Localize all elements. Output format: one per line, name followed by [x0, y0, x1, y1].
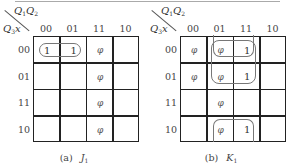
- cell-r0c3: [114, 37, 141, 64]
- row-header: 01: [8, 71, 30, 82]
- row-header: 11: [155, 97, 177, 108]
- row-header: 10: [155, 124, 177, 135]
- cell-r3c3: [114, 117, 141, 144]
- cell-r2c3: [261, 90, 288, 117]
- cell-r1c0: [34, 64, 61, 91]
- row-header: 11: [8, 97, 30, 108]
- figure-caption: (a)J1: [0, 152, 148, 164]
- row-header: 10: [8, 124, 30, 135]
- column-variable-label: Q1Q2: [161, 5, 185, 17]
- cell-r2c0: [181, 90, 208, 117]
- cell-r3c1: [61, 117, 88, 144]
- row-variable-label: Q3x: [150, 23, 168, 35]
- kmap-k1: Q1Q2 Q3x 00 01 11 10 00 01 11 10 φ φ 1 φ…: [147, 0, 295, 168]
- cell-r3c0: [181, 117, 208, 144]
- cell-r0c0: φ: [181, 37, 208, 64]
- col-header: 01: [60, 23, 86, 34]
- cell-r1c0: φ: [181, 64, 208, 91]
- row-header: 00: [8, 44, 30, 55]
- cell-r1c3: [114, 64, 141, 91]
- cell-r2c2: φ: [87, 90, 114, 117]
- cell-r0c2: φ: [87, 37, 114, 64]
- row-header: 00: [155, 44, 177, 55]
- cell-r1c3: [261, 64, 288, 91]
- kmap-j1: Q1Q2 Q3x 00 01 11 10 00 01 11 10 1 1 φ φ…: [0, 0, 148, 168]
- grouping-loop-wrap-top: [213, 35, 254, 57]
- column-variable-label: Q1Q2: [14, 5, 38, 17]
- col-header: 11: [233, 23, 259, 34]
- cell-r1c2: φ: [87, 64, 114, 91]
- cell-r3c3: [261, 117, 288, 144]
- col-header: 10: [113, 23, 139, 34]
- cell-r2c2: [234, 90, 261, 117]
- cell-r2c0: [34, 90, 61, 117]
- row-variable-label: Q3x: [3, 23, 21, 35]
- row-header: 01: [155, 71, 177, 82]
- col-header: 00: [180, 23, 206, 34]
- cell-r3c2: φ: [87, 117, 114, 144]
- col-header: 00: [33, 23, 59, 34]
- cell-r0c3: [261, 37, 288, 64]
- cell-r2c3: [114, 90, 141, 117]
- grouping-loop-wrap-bottom: [213, 119, 254, 142]
- cell-r1c1: [61, 64, 88, 91]
- col-header: 10: [260, 23, 286, 34]
- col-header: 01: [207, 23, 233, 34]
- cell-r2c1: [61, 90, 88, 117]
- kmap-grid: φ φ 1 φ φ 1 φ φ 1: [180, 36, 286, 142]
- cell-r3c0: [34, 117, 61, 144]
- col-header: 11: [86, 23, 112, 34]
- kmap-grid: 1 1 φ φ φ φ: [33, 36, 139, 142]
- figure-caption: (b)K1: [147, 152, 295, 164]
- grouping-loop: [39, 43, 81, 57]
- cell-r2c1: φ: [208, 90, 235, 117]
